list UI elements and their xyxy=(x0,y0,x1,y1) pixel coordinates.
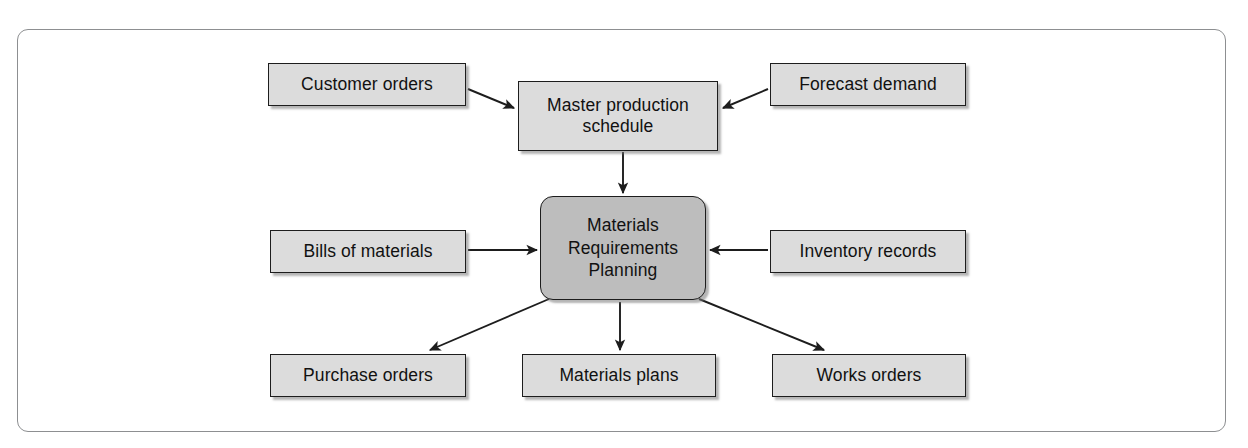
node-master-production-schedule[interactable]: Master production schedule xyxy=(518,81,718,151)
node-label: Purchase orders xyxy=(297,365,439,386)
node-materials-requirements-planning[interactable]: Materials Requirements Planning xyxy=(540,196,706,300)
node-label: Forecast demand xyxy=(793,74,943,95)
edge-mrp-to-purchase-orders xyxy=(430,299,549,350)
diagram-canvas: Customer orders Master production schedu… xyxy=(0,0,1248,448)
node-label: Customer orders xyxy=(295,74,439,95)
edge-forecast-demand-to-mps xyxy=(723,89,768,108)
node-label: Works orders xyxy=(811,365,928,386)
node-inventory-records[interactable]: Inventory records xyxy=(770,230,966,273)
node-materials-plans[interactable]: Materials plans xyxy=(522,354,716,397)
edge-customer-orders-to-mps xyxy=(468,89,514,108)
node-purchase-orders[interactable]: Purchase orders xyxy=(270,354,466,397)
node-works-orders[interactable]: Works orders xyxy=(772,354,966,397)
node-label: Master production schedule xyxy=(541,95,695,138)
node-label: Bills of materials xyxy=(297,241,438,262)
node-customer-orders[interactable]: Customer orders xyxy=(268,63,466,106)
node-label: Materials Requirements Planning xyxy=(562,214,684,282)
node-label: Inventory records xyxy=(794,241,943,262)
edge-mrp-to-works-orders xyxy=(699,299,824,350)
node-label: Materials plans xyxy=(553,365,684,386)
node-forecast-demand[interactable]: Forecast demand xyxy=(770,63,966,106)
node-bills-of-materials[interactable]: Bills of materials xyxy=(270,230,466,273)
